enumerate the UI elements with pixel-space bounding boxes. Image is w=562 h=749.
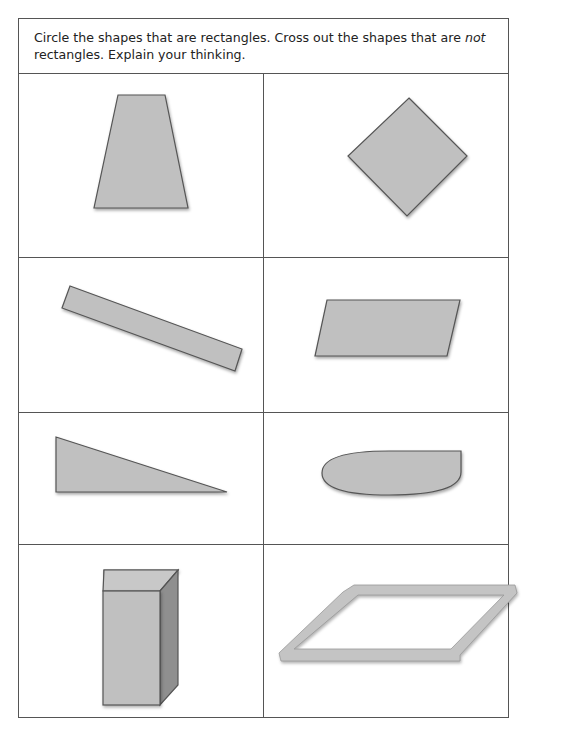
parallelogram-frame-shape <box>264 545 508 717</box>
cell-half-ellipse[interactable] <box>264 413 508 545</box>
instructions-text-1: Circle the shapes that are rectangles. C… <box>34 30 465 45</box>
cell-trapezoid[interactable] <box>19 74 264 258</box>
cell-parallelogram[interactable] <box>264 258 508 413</box>
tilted-rectangle-shape <box>19 258 264 413</box>
half-ellipse-shape <box>264 413 508 545</box>
cell-parallelogram-frame[interactable] <box>264 545 508 717</box>
trapezoid-shape <box>19 74 264 258</box>
worksheet: Circle the shapes that are rectangles. C… <box>18 18 509 718</box>
rectangular-prism-shape <box>19 545 264 717</box>
cell-right-triangle[interactable] <box>19 413 264 545</box>
cell-tilted-rectangle[interactable] <box>19 258 264 413</box>
instructions-text-2: rectangles. Explain your thinking. <box>34 47 246 62</box>
cell-rectangular-prism[interactable] <box>19 545 264 717</box>
parallelogram-shape <box>264 258 508 413</box>
tilted-square-shape <box>264 74 508 258</box>
instructions-emphasis: not <box>465 30 486 45</box>
cell-tilted-square[interactable] <box>264 74 508 258</box>
right-triangle-shape <box>19 413 264 545</box>
shape-grid <box>19 74 508 717</box>
instructions: Circle the shapes that are rectangles. C… <box>19 19 508 74</box>
